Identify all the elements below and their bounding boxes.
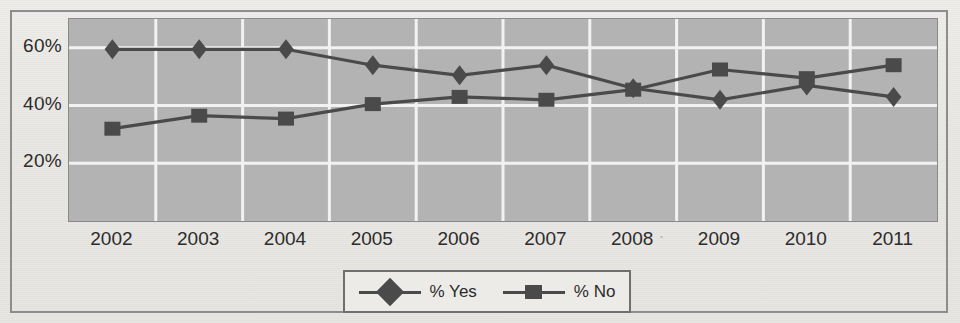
x-axis-tick-label: 2002 (90, 228, 132, 250)
data-point-marker (191, 109, 207, 123)
plot-svg (69, 19, 937, 221)
legend-label-no: % No (574, 282, 616, 302)
data-point-marker (625, 83, 641, 97)
x-axis: 2002200320042005200620072008200920102011 (68, 228, 938, 256)
x-axis-tick-label: 2003 (177, 228, 219, 250)
data-point-marker (886, 87, 902, 107)
data-point-marker (365, 55, 381, 75)
data-point-marker (278, 39, 294, 59)
data-point-marker (538, 93, 554, 107)
x-axis-tick-label: 2011 (872, 228, 913, 250)
legend-label-yes: % Yes (430, 282, 477, 302)
scan-speck (660, 236, 663, 238)
x-axis-tick-label: 2008 (611, 228, 653, 250)
scan-speck (411, 66, 415, 69)
chart-screenshot: 60%40%20% 200220032004200520062007200820… (0, 0, 960, 323)
data-point-marker (365, 97, 381, 111)
data-point-marker (105, 39, 121, 59)
data-point-marker (452, 90, 468, 104)
x-axis-tick-label: 2010 (785, 228, 827, 250)
data-point-marker (886, 58, 902, 72)
legend-item-yes[interactable]: % Yes (359, 282, 477, 302)
data-point-marker (539, 55, 555, 75)
data-point-marker (191, 39, 207, 59)
x-axis-tick-label: 2004 (264, 228, 306, 250)
data-point-marker (712, 63, 728, 77)
y-axis-tick-label: 60% (23, 35, 62, 57)
square-marker-icon (503, 283, 565, 301)
x-axis-tick-label: 2006 (437, 228, 479, 250)
chart-legend: % Yes % No (343, 270, 631, 313)
x-axis-tick-label: 2009 (698, 228, 740, 250)
plot-area (68, 18, 938, 222)
y-axis-tick-label: 20% (23, 150, 62, 172)
data-point-marker (452, 65, 468, 85)
data-point-marker (278, 112, 294, 126)
y-axis: 60%40%20% (0, 18, 62, 222)
data-point-marker (104, 122, 120, 136)
scan-speck (40, 96, 43, 99)
diamond-marker-icon (359, 283, 421, 301)
legend-item-no[interactable]: % No (503, 282, 616, 302)
x-axis-tick-label: 2007 (524, 228, 566, 250)
x-axis-tick-label: 2005 (351, 228, 393, 250)
data-point-marker (799, 71, 815, 85)
